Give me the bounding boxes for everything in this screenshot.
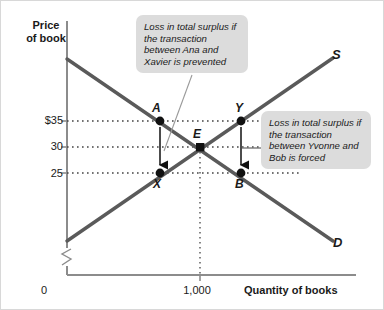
y-tick-label-25: 25 (19, 167, 63, 179)
point-label-a: A (152, 101, 161, 115)
figure-container: Price of book Quantity of books $35 30 2… (0, 0, 384, 310)
data-point-e (196, 143, 204, 151)
x-tick-label-1000: 1,000 (169, 284, 225, 296)
y-axis-title: Price of book (15, 19, 77, 44)
point-label-e: E (193, 127, 201, 141)
callout-ana-xavier: Loss in total surplus if the transaction… (136, 15, 248, 73)
callout-yvonne-bob: Loss in total surplus if the transaction… (261, 111, 371, 169)
y-axis-title-line1: Price (15, 19, 77, 32)
y-tick-label-30: 30 (19, 140, 63, 152)
supply-curve-label: S (332, 47, 341, 62)
x-axis-title: Quantity of books (244, 284, 374, 297)
data-point-y (237, 117, 246, 126)
axis-break-icon (62, 248, 72, 266)
point-label-y: Y (235, 101, 243, 115)
data-point-a (156, 117, 165, 126)
x-tick-label-0: 0 (31, 284, 57, 296)
point-label-x: X (153, 177, 161, 191)
point-label-b: B (235, 177, 244, 191)
y-axis-title-line2: of book (15, 32, 77, 45)
demand-curve-label: D (333, 235, 342, 250)
y-tick-label-35: $35 (19, 114, 63, 126)
